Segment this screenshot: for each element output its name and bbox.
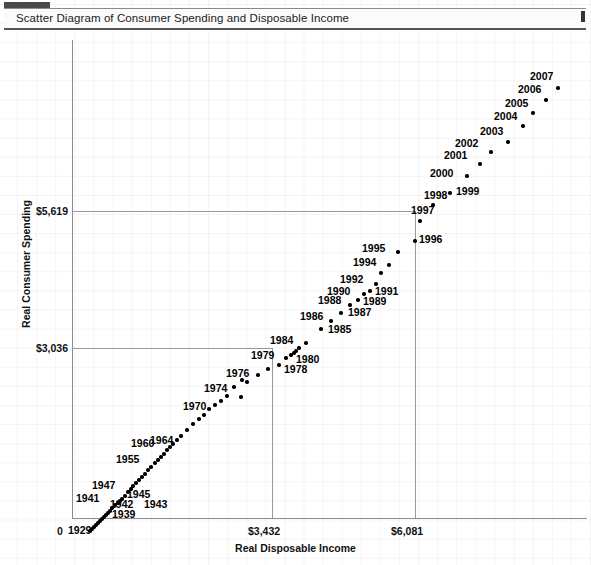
data-point-label: 2004 bbox=[494, 110, 517, 122]
x-axis-line bbox=[72, 518, 587, 519]
y-axis-title: Real Consumer Spending bbox=[20, 194, 32, 334]
data-point bbox=[149, 465, 152, 468]
data-point bbox=[175, 438, 178, 441]
data-point bbox=[544, 98, 547, 101]
data-point bbox=[277, 363, 280, 366]
data-point bbox=[245, 380, 248, 383]
data-point bbox=[297, 346, 300, 349]
data-point bbox=[197, 417, 200, 420]
data-point bbox=[387, 263, 390, 266]
data-point-label: 1964 bbox=[150, 434, 173, 446]
data-point-label: 1929 bbox=[68, 524, 91, 536]
data-point-label: 1974 bbox=[204, 382, 227, 394]
data-point-label: 1984 bbox=[270, 334, 293, 346]
gridline-y-5619 bbox=[72, 211, 415, 212]
data-point bbox=[153, 461, 156, 464]
data-point-label: 1992 bbox=[340, 273, 363, 285]
data-point-label: 1995 bbox=[362, 242, 385, 254]
data-point bbox=[159, 455, 162, 458]
data-point bbox=[379, 271, 382, 274]
data-point-label: 2005 bbox=[505, 97, 528, 109]
data-point-label: 1980 bbox=[296, 353, 319, 365]
data-point bbox=[202, 413, 205, 416]
data-point-label: 1994 bbox=[353, 256, 376, 268]
page-title: Scatter Diagram of Consumer Spending and… bbox=[16, 12, 349, 24]
data-point bbox=[213, 403, 216, 406]
data-point bbox=[146, 468, 149, 471]
data-point-label: 1996 bbox=[419, 233, 442, 245]
data-point bbox=[489, 150, 492, 153]
gridline-x-6081 bbox=[415, 211, 416, 518]
data-point bbox=[162, 452, 165, 455]
data-point-label: 2001 bbox=[444, 149, 467, 161]
gridline-y-3036 bbox=[72, 348, 272, 349]
data-point-label: 2007 bbox=[530, 70, 553, 82]
data-point-label: 1985 bbox=[328, 323, 351, 335]
x-axis-title: Real Disposable Income bbox=[0, 542, 591, 554]
data-point bbox=[239, 395, 242, 398]
data-point bbox=[140, 475, 143, 478]
data-point-label: 1990 bbox=[327, 285, 350, 297]
data-point bbox=[478, 162, 481, 165]
data-point bbox=[232, 385, 235, 388]
title-bar-end-marker bbox=[581, 11, 585, 22]
data-point bbox=[396, 250, 399, 253]
data-point bbox=[256, 373, 259, 376]
data-point bbox=[521, 124, 524, 127]
data-point bbox=[137, 478, 140, 481]
scatter-chart: $5,619 $3,036 0 $3,432 $6,081 Real Consu… bbox=[0, 30, 591, 565]
data-point bbox=[531, 111, 534, 114]
data-point-label: 1979 bbox=[251, 349, 274, 361]
data-point bbox=[506, 140, 509, 143]
y-tick-label-3036: $3,036 bbox=[10, 342, 68, 354]
data-point bbox=[319, 327, 322, 330]
data-point bbox=[448, 191, 451, 194]
data-point bbox=[207, 407, 210, 410]
data-point bbox=[284, 356, 287, 359]
data-point-label: 1987 bbox=[348, 306, 371, 318]
x-tick-label-6081: $6,081 bbox=[391, 525, 423, 537]
data-point bbox=[156, 458, 159, 461]
data-point-label: 1991 bbox=[375, 285, 398, 297]
data-point bbox=[413, 239, 416, 242]
y-axis-line bbox=[72, 40, 73, 518]
data-point bbox=[556, 86, 559, 89]
data-point bbox=[219, 399, 222, 402]
data-point-label: 1941 bbox=[76, 492, 99, 504]
data-point bbox=[304, 341, 307, 344]
data-point bbox=[368, 289, 371, 292]
data-point-label: 2000 bbox=[430, 167, 453, 179]
data-point-label: 1945 bbox=[127, 488, 150, 500]
data-point bbox=[143, 472, 146, 475]
data-point bbox=[165, 448, 168, 451]
data-point-label: 2002 bbox=[455, 137, 478, 149]
x-tick-label-0: 0 bbox=[57, 525, 63, 537]
data-point-label: 2003 bbox=[480, 125, 503, 137]
data-point bbox=[356, 298, 359, 301]
data-point-label: 1970 bbox=[183, 400, 206, 412]
data-point-label: 1976 bbox=[226, 367, 249, 379]
data-point-label: 1955 bbox=[116, 453, 139, 465]
y-tick-label-5619: $5,619 bbox=[10, 205, 68, 217]
data-point bbox=[465, 174, 468, 177]
data-point-label: 1999 bbox=[456, 185, 479, 197]
data-point-label: 1947 bbox=[92, 479, 115, 491]
data-point-label: 2006 bbox=[518, 83, 541, 95]
data-point bbox=[185, 428, 188, 431]
data-point bbox=[266, 367, 269, 370]
data-point bbox=[134, 481, 137, 484]
data-point-label: 1997 bbox=[411, 204, 434, 216]
data-point-label: 1986 bbox=[300, 310, 323, 322]
x-tick-label-3432: $3,432 bbox=[248, 525, 280, 537]
data-point bbox=[225, 394, 228, 397]
data-point bbox=[191, 422, 194, 425]
gridline-x-3432 bbox=[272, 348, 273, 518]
data-point bbox=[179, 434, 182, 437]
data-point-label: 1998 bbox=[424, 189, 447, 201]
window-tab-marker bbox=[4, 2, 50, 8]
data-point bbox=[339, 311, 342, 314]
data-point bbox=[418, 219, 421, 222]
